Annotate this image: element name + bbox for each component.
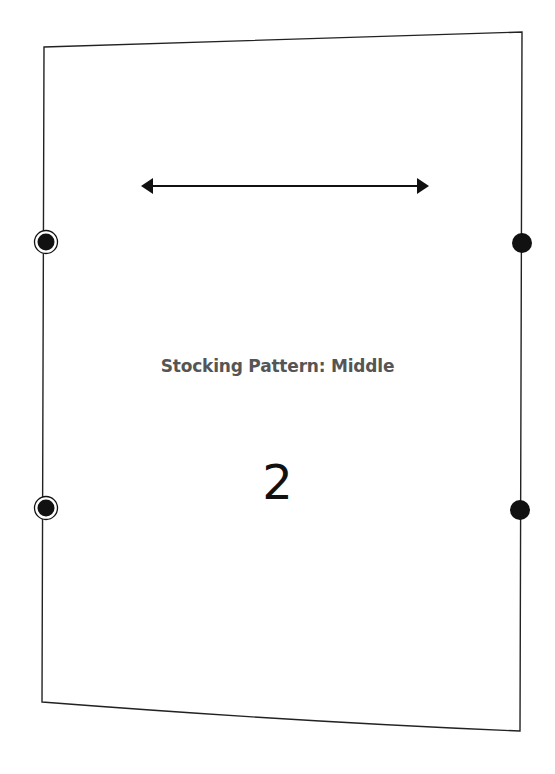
piece-number: 2 (0, 452, 555, 512)
pattern-title: Stocking Pattern: Middle (0, 356, 555, 376)
pattern-piece-outline (42, 32, 522, 731)
notch-left-upper-icon (35, 231, 58, 254)
grainline-double-arrow-icon (141, 178, 429, 194)
notch-right-upper-icon (512, 233, 532, 253)
pattern-canvas (0, 0, 555, 774)
